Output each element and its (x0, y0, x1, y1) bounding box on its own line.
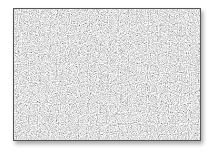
noise-texture-frame (13, 8, 201, 141)
noise-texture (14, 9, 200, 140)
